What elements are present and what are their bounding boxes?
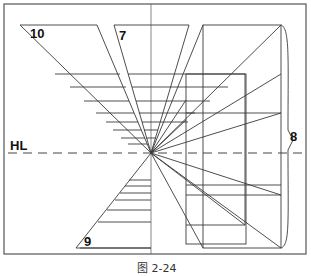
label-8: 8	[290, 129, 297, 144]
perspective-diagram: 10 7 9 8 HL 图 2-24	[0, 0, 311, 276]
label-9: 9	[84, 234, 91, 249]
figure-caption: 图 2-24	[137, 262, 176, 275]
box-8	[151, 25, 281, 248]
label-7: 7	[119, 28, 126, 43]
triangle-7	[114, 25, 189, 153]
outer-frame	[4, 4, 306, 254]
label-10: 10	[30, 26, 44, 41]
label-hl: HL	[10, 138, 27, 153]
triangle-10	[20, 25, 151, 153]
